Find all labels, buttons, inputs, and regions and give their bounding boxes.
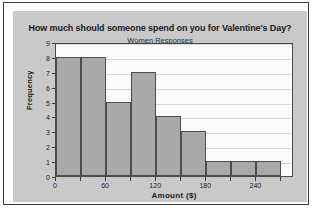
histogram-bar	[131, 72, 156, 176]
x-tick-mark	[80, 177, 81, 181]
x-tick-mark	[55, 177, 56, 181]
y-tick-label: 4	[38, 114, 50, 121]
y-tick-label: 7	[38, 69, 50, 76]
y-tick-label: 5	[38, 99, 50, 106]
x-tick-mark	[255, 177, 256, 181]
chart-panel: How much should someone spend on you for…	[13, 11, 307, 202]
histogram-bar	[56, 57, 81, 176]
x-tick-label: 180	[199, 182, 211, 189]
histogram-bar	[81, 57, 106, 176]
x-tick-mark	[105, 177, 106, 181]
x-tick-mark	[130, 177, 131, 181]
x-tick-mark	[280, 177, 281, 181]
histogram-bar	[206, 161, 231, 176]
histogram-bar	[156, 116, 181, 176]
y-tick-label: 2	[38, 144, 50, 151]
histogram-bar	[256, 161, 281, 176]
bars-layer	[56, 44, 292, 176]
x-tick-label: 60	[101, 182, 109, 189]
y-tick-label: 9	[38, 40, 50, 47]
x-tick-mark	[180, 177, 181, 181]
y-axis-title: Frequency	[25, 70, 34, 110]
x-tick-label: 240	[250, 182, 262, 189]
x-tick-mark	[155, 177, 156, 181]
y-tick-label: 6	[38, 84, 50, 91]
histogram-bar	[181, 131, 206, 176]
x-tick-mark	[205, 177, 206, 181]
image-border: How much should someone spend on you for…	[3, 2, 309, 205]
y-tick-label: 1	[38, 159, 50, 166]
x-tick-mark	[230, 177, 231, 181]
histogram-bar	[231, 161, 256, 176]
x-tick-label: 0	[53, 182, 57, 189]
plot-area	[55, 43, 293, 177]
screenshot-root: How much should someone spend on you for…	[0, 0, 312, 208]
chart-title: How much should someone spend on you for…	[13, 23, 307, 33]
histogram-bar	[106, 102, 131, 176]
x-axis-title: Amount ($)	[55, 191, 293, 200]
y-tick-label: 3	[38, 129, 50, 136]
y-tick-label: 8	[38, 54, 50, 61]
x-tick-label: 120	[149, 182, 161, 189]
y-tick-label: 0	[38, 174, 50, 181]
